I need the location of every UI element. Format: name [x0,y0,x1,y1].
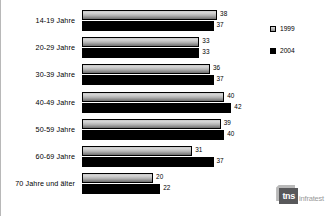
tns-logo-mark-icon: tns [276,185,298,204]
bar-1999 [82,119,221,129]
category-label: 70 Jahre und älter [1,171,75,197]
bar-value-1999: 39 [224,120,231,126]
bar-1999 [82,146,192,156]
bar-2004 [82,21,214,31]
category-label: 50-59 Jahre [1,117,75,143]
legend-label-2004: 2004 [280,47,295,54]
bar-value-2004: 42 [234,104,241,110]
tns-infratest-logo: tns infratest [276,185,324,204]
category-label: 20-29 Jahre [1,35,75,61]
bar-2004 [82,184,160,194]
bar-1999 [82,92,224,102]
tns-logo-block: tns [279,188,298,204]
bar-value-1999: 33 [202,38,209,44]
legend-swatch-1999-icon [270,26,276,32]
bar-group-row: 30-39 Jahre3637 [1,62,269,88]
bar-value-2004: 37 [217,22,224,28]
tns-logo-text: tns [282,192,294,201]
bar-group-row: 70 Jahre und älter2022 [1,171,269,197]
category-label: 60-69 Jahre [1,144,75,170]
bar-1999 [82,10,217,20]
bar-group-row: 60-69 Jahre3137 [1,144,269,170]
bar-1999 [82,37,199,47]
bar-chart-plot-area: 14-19 Jahre383720-29 Jahre333330-39 Jahr… [1,0,269,216]
legend-item-1999: 1999 [270,22,322,35]
bar-value-2004: 37 [217,76,224,82]
bar-2004 [82,103,231,113]
bar-1999 [82,64,210,74]
legend-label-1999: 1999 [280,25,295,32]
bar-group-row: 14-19 Jahre3837 [1,8,269,34]
bar-value-1999: 38 [220,11,227,17]
legend-swatch-2004-icon [270,48,276,54]
category-label: 40-49 Jahre [1,90,75,116]
category-label: 30-39 Jahre [1,62,75,88]
bar-value-2004: 37 [217,158,224,164]
bar-value-1999: 31 [195,147,202,153]
bar-group-row: 40-49 Jahre4042 [1,90,269,116]
bar-2004 [82,157,214,167]
bar-2004 [82,48,199,58]
infratest-wordmark: infratest [299,194,324,204]
bar-value-2004: 40 [227,131,234,137]
bar-value-2004: 22 [163,185,170,191]
bar-value-1999: 40 [227,93,234,99]
bar-value-1999: 20 [156,174,163,180]
chart-legend: 1999 2004 [270,22,322,66]
category-label: 14-19 Jahre [1,8,75,34]
legend-item-2004: 2004 [270,44,322,57]
bar-2004 [82,130,224,140]
bar-1999 [82,173,153,183]
bar-group-row: 20-29 Jahre3333 [1,35,269,61]
bar-value-2004: 33 [202,49,209,55]
chart-canvas: 14-19 Jahre383720-29 Jahre333330-39 Jahr… [0,0,334,216]
bar-group-row: 50-59 Jahre3940 [1,117,269,143]
bar-2004 [82,75,214,85]
bar-value-1999: 36 [213,65,220,71]
